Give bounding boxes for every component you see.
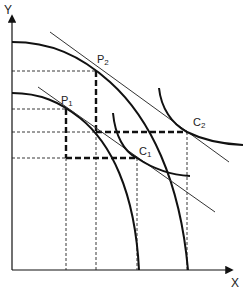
point-label-c1: C1: [139, 145, 152, 159]
point-label-p2: P2: [97, 53, 109, 67]
y-axis-label: Y: [4, 3, 12, 17]
diagram-canvas: Y X P1 P2 C1 C2: [0, 0, 251, 291]
guide-lines-horizontal: [12, 71, 96, 158]
x-axis-label: X: [231, 276, 239, 290]
point-label-c2: C2: [193, 116, 206, 130]
trade-triangle-2: [96, 71, 187, 132]
guide-lines-vertical: [66, 132, 187, 270]
indifference-curve-c1: [113, 113, 190, 176]
ppf-trade-diagram: Y X P1 P2 C1 C2: [0, 0, 251, 291]
indifference-curve-c2: [159, 88, 243, 145]
point-label-p1: P1: [61, 94, 73, 108]
ppf-inner-curve: [12, 93, 139, 270]
price-line-2: [50, 32, 229, 162]
ppf-outer-curve: [12, 42, 188, 270]
